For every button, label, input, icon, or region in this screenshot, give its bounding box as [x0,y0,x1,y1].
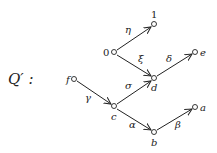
node-label-0: 0 [103,47,109,58]
node-a [193,105,198,110]
edge-label-xi: ξ [138,53,144,64]
node-label-f: f [65,74,72,85]
quiver-diagram: Q′ : 1 0 e d f c a b η ξ δ σ γ α β [0,0,217,153]
node-label-e: e [200,47,206,58]
edge-xi [117,55,151,76]
node-0 [112,50,117,55]
node-d [152,76,157,81]
edge-eta [117,27,151,50]
node-1 [152,22,157,27]
edge-label-beta: β [174,119,181,130]
edge-label-delta: δ [166,53,172,64]
edge-label-sigma: σ [125,80,133,91]
node-b [152,130,157,135]
node-label-a: a [200,102,206,113]
edge-delta [157,54,192,76]
node-label-b: b [151,137,157,148]
quiver-title: Q′ : [8,70,34,88]
edge-gamma [77,81,111,104]
node-label-c: c [111,111,117,122]
edge-label-alpha: α [129,119,136,130]
node-e [193,50,198,55]
node-f [72,77,77,82]
edge-label-eta: η [125,24,131,35]
node-label-1: 1 [151,9,157,20]
edge-label-gamma: γ [85,92,91,103]
edge-sigma [117,81,151,104]
node-c [112,104,117,109]
node-label-d: d [151,82,157,93]
